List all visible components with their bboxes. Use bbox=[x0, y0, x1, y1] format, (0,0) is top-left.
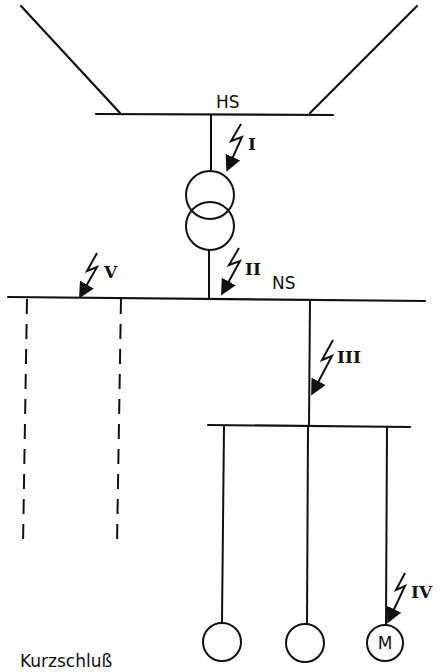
fault-V: V bbox=[81, 253, 118, 295]
motor-load: M bbox=[367, 625, 403, 661]
lightning-arrow-icon bbox=[228, 124, 242, 168]
motor-label: M bbox=[378, 633, 393, 653]
svg-text:II: II bbox=[245, 259, 261, 279]
lightning-arrow-icon bbox=[389, 573, 405, 620]
fault-IV: IV bbox=[389, 573, 433, 620]
sub-distribution-busbar bbox=[208, 425, 410, 427]
load-feeders bbox=[222, 426, 387, 624]
load-2 bbox=[286, 624, 324, 662]
lightning-arrow-icon bbox=[223, 248, 240, 292]
transformer bbox=[186, 115, 234, 298]
short-circuit-diagram: HS NS M I bbox=[0, 0, 440, 672]
load-1 bbox=[203, 623, 241, 661]
fault-I: I bbox=[228, 124, 256, 168]
lightning-arrow-icon bbox=[81, 253, 97, 295]
transformer-secondary-winding bbox=[186, 202, 234, 250]
other-feeders-dashed bbox=[23, 299, 121, 545]
hs-label: HS bbox=[216, 92, 240, 112]
sub-distribution-feeder bbox=[309, 300, 310, 425]
svg-text:V: V bbox=[103, 262, 118, 282]
fault-II: II bbox=[223, 248, 261, 292]
fault-III: III bbox=[313, 340, 361, 392]
load-circle-icon bbox=[203, 623, 241, 661]
hs-busbar: HS bbox=[96, 92, 333, 115]
load-circle-icon bbox=[286, 624, 324, 662]
transformer-primary-winding bbox=[186, 171, 234, 219]
ns-busbar: NS bbox=[8, 273, 425, 301]
svg-text:IV: IV bbox=[411, 582, 433, 602]
ns-label: NS bbox=[272, 273, 296, 293]
diagram-caption: Kurzschluß bbox=[20, 651, 112, 671]
svg-text:I: I bbox=[248, 134, 256, 154]
lightning-arrow-icon bbox=[313, 340, 333, 392]
svg-text:III: III bbox=[337, 347, 361, 367]
